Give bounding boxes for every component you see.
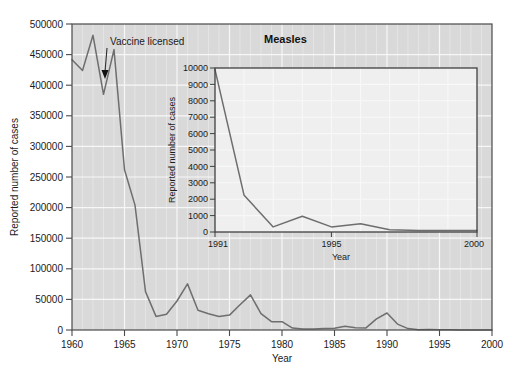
main-ytick-3: 150000 bbox=[30, 233, 64, 244]
main-ytick-6: 300000 bbox=[30, 141, 64, 152]
inset-x-axis-label: Year bbox=[332, 252, 350, 262]
main-xtick-1970: 1970 bbox=[166, 339, 189, 350]
inset-ytick-5: 5000 bbox=[188, 145, 208, 155]
inset-ytick-4: 4000 bbox=[188, 162, 208, 172]
inset-plot: 0 1000 2000 3000 4000 5000 6000 7000 800… bbox=[167, 63, 484, 262]
main-ytick-1: 50000 bbox=[35, 294, 63, 305]
inset-ytick-10: 10000 bbox=[183, 63, 208, 73]
vaccine-licensed-label: Vaccine licensed bbox=[110, 36, 184, 47]
inset-xtick-2000: 2000 bbox=[464, 239, 484, 249]
main-ytick-10: 500000 bbox=[30, 19, 64, 30]
inset-xtick-1991: 1991 bbox=[208, 239, 228, 249]
main-x-tick-labels: 1960 1965 1970 1975 1980 1985 1990 1995 … bbox=[61, 339, 504, 350]
main-ytick-8: 400000 bbox=[30, 80, 64, 91]
inset-xtick-1995: 1995 bbox=[321, 239, 341, 249]
main-xtick-1980: 1980 bbox=[271, 339, 294, 350]
inset-ytick-3: 3000 bbox=[188, 178, 208, 188]
page-title: Measles bbox=[264, 33, 307, 45]
main-ytick-9: 450000 bbox=[30, 49, 64, 60]
main-ytick-0: 0 bbox=[57, 325, 63, 336]
main-ytick-2: 100000 bbox=[30, 263, 64, 274]
inset-ytick-2: 2000 bbox=[188, 194, 208, 204]
inset-ytick-7: 7000 bbox=[188, 112, 208, 122]
inset-ytick-6: 6000 bbox=[188, 129, 208, 139]
inset-ytick-1: 1000 bbox=[188, 211, 208, 221]
main-ytick-4: 200000 bbox=[30, 202, 64, 213]
main-y-axis-label: Reported number of cases bbox=[9, 118, 20, 236]
main-xtick-1960: 1960 bbox=[61, 339, 84, 350]
inset-y-axis-label: Reported number of cases bbox=[167, 96, 177, 203]
inset-ytick-9: 9000 bbox=[188, 80, 208, 90]
main-xtick-1965: 1965 bbox=[113, 339, 136, 350]
main-xtick-1985: 1985 bbox=[323, 339, 346, 350]
chart-canvas: 0 50000 100000 150000 200000 250000 3000… bbox=[0, 0, 521, 381]
main-xtick-1995: 1995 bbox=[428, 339, 451, 350]
main-x-axis-label: Year bbox=[272, 353, 293, 364]
main-ytick-5: 250000 bbox=[30, 172, 64, 183]
measles-incidence-figure: 0 50000 100000 150000 200000 250000 3000… bbox=[0, 0, 521, 381]
main-ytick-7: 350000 bbox=[30, 110, 64, 121]
main-xtick-2000: 2000 bbox=[481, 339, 504, 350]
main-xtick-1990: 1990 bbox=[376, 339, 399, 350]
main-xtick-1975: 1975 bbox=[218, 339, 241, 350]
inset-ytick-8: 8000 bbox=[188, 96, 208, 106]
inset-ytick-0: 0 bbox=[203, 227, 208, 237]
